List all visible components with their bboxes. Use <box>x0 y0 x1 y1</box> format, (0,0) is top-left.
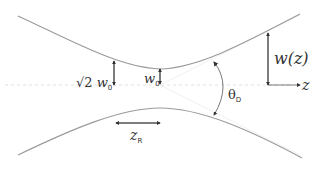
label-rayleigh-range: zR <box>130 128 142 145</box>
label-w0: w0 <box>144 72 160 88</box>
beam-diagram <box>0 0 323 169</box>
label-z-axis: z <box>302 78 309 92</box>
label-sqrt2-w0: √2 w0 <box>76 76 112 92</box>
divergence-angle-arc <box>214 62 223 115</box>
label-wz: w(z) <box>274 51 309 67</box>
label-theta-d: θD <box>228 88 241 104</box>
beam-envelope-upper <box>18 14 300 69</box>
beam-envelope-lower <box>18 108 302 158</box>
